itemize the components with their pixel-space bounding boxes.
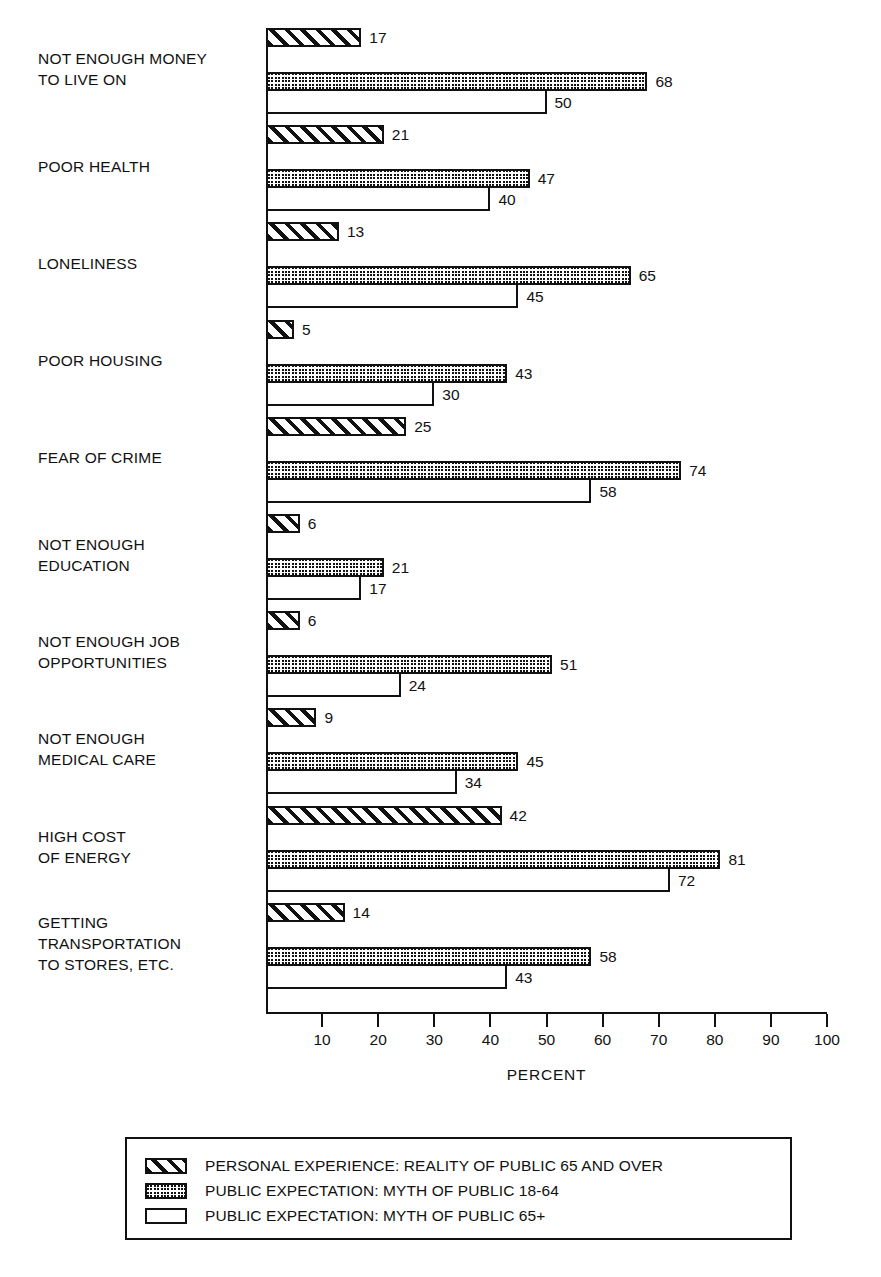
bar [266, 169, 530, 188]
x-axis-tick-label: 60 [594, 1030, 611, 1049]
bar [266, 655, 552, 674]
bar [266, 320, 294, 339]
bar-value-label: 17 [369, 577, 386, 600]
bar [266, 966, 507, 989]
diagonal-hatch-icon [145, 1158, 187, 1174]
bar-chart: NOT ENOUGH MONEY TO LIVE ONPOOR HEALTHLO… [0, 0, 881, 1277]
bar-value-label: 45 [526, 752, 543, 771]
x-axis-tick-label: 40 [482, 1030, 499, 1049]
category-label: FEAR OF CRIME [38, 447, 254, 468]
bar [266, 364, 507, 383]
bar-value-label: 58 [599, 947, 616, 966]
checker-fill-icon [145, 1183, 187, 1199]
bar-value-label: 43 [515, 364, 532, 383]
x-axis-title: PERCENT [266, 1066, 827, 1084]
bar-value-label: 17 [369, 28, 386, 47]
bar-value-label: 24 [409, 674, 426, 697]
bar [266, 188, 490, 211]
bar [266, 947, 591, 966]
bar-value-label: 43 [515, 966, 532, 989]
legend-label: PERSONAL EXPERIENCE: REALITY OF PUBLIC 6… [205, 1156, 663, 1175]
category-label: GETTING TRANSPORTATION TO STORES, ETC. [38, 912, 254, 975]
bar-value-label: 42 [510, 806, 527, 825]
bar [266, 850, 720, 869]
bar-value-label: 21 [392, 125, 409, 144]
bar [266, 480, 591, 503]
x-axis-tick [826, 1014, 828, 1027]
bar [266, 752, 518, 771]
bar [266, 674, 401, 697]
bar [266, 222, 339, 241]
bar-value-label: 14 [353, 903, 370, 922]
category-label: LONELINESS [38, 253, 254, 274]
x-axis-tick-label: 10 [313, 1030, 330, 1049]
x-axis-tick-label: 90 [762, 1030, 779, 1049]
bar [266, 869, 670, 892]
category-label: NOT ENOUGH EDUCATION [38, 534, 254, 576]
x-axis-tick-label: 20 [370, 1030, 387, 1049]
bar [266, 771, 457, 794]
category-label: HIGH COST OF ENERGY [38, 826, 254, 868]
x-axis-tick [489, 1014, 491, 1027]
bar-value-label: 13 [347, 222, 364, 241]
bar-value-label: 34 [465, 771, 482, 794]
bar-value-label: 50 [555, 91, 572, 114]
bar [266, 417, 406, 436]
bar [266, 285, 518, 308]
legend-box: PERSONAL EXPERIENCE: REALITY OF PUBLIC 6… [125, 1137, 792, 1240]
bar [266, 708, 316, 727]
bar [266, 806, 502, 825]
x-axis-tick [433, 1014, 435, 1027]
bar [266, 266, 631, 285]
bar [266, 461, 681, 480]
bar-value-label: 21 [392, 558, 409, 577]
x-axis-tick [321, 1014, 323, 1027]
bar-value-label: 45 [526, 285, 543, 308]
x-axis-tick [377, 1014, 379, 1027]
bar-value-label: 68 [655, 72, 672, 91]
bar [266, 577, 361, 600]
x-axis-tick-label: 70 [650, 1030, 667, 1049]
bar-value-label: 74 [689, 461, 706, 480]
bar [266, 28, 361, 47]
bar-value-label: 72 [678, 869, 695, 892]
legend-label: PUBLIC EXPECTATION: MYTH OF PUBLIC 18-64 [205, 1181, 559, 1200]
category-label: NOT ENOUGH MEDICAL CARE [38, 728, 254, 770]
plot-area: 1768502147401365455433025745862117651249… [266, 28, 876, 1018]
category-label: NOT ENOUGH JOB OPPORTUNITIES [38, 631, 254, 673]
bar [266, 91, 547, 114]
bar-value-label: 6 [308, 514, 317, 533]
bar [266, 903, 345, 922]
bar-value-label: 25 [414, 417, 431, 436]
bar-value-label: 47 [538, 169, 555, 188]
bar [266, 514, 300, 533]
x-axis-tick [658, 1014, 660, 1027]
bar-value-label: 5 [302, 320, 311, 339]
bar-value-label: 6 [308, 611, 317, 630]
bar [266, 611, 300, 630]
x-axis-tick-label: 30 [426, 1030, 443, 1049]
x-axis-tick-label: 80 [706, 1030, 723, 1049]
bar [266, 383, 434, 406]
x-axis-tick-label: 100 [814, 1030, 840, 1049]
bar-value-label: 9 [324, 708, 333, 727]
category-label: POOR HEALTH [38, 156, 254, 177]
bar-value-label: 65 [639, 266, 656, 285]
open-outline-icon [145, 1208, 187, 1224]
x-axis-tick [546, 1014, 548, 1027]
category-label: POOR HOUSING [38, 350, 254, 371]
x-axis-tick [602, 1014, 604, 1027]
bar-value-label: 58 [599, 480, 616, 503]
bar-value-label: 81 [728, 850, 745, 869]
bar-value-label: 30 [442, 383, 459, 406]
x-axis-tick-label: 50 [538, 1030, 555, 1049]
x-axis-tick [770, 1014, 772, 1027]
bar-value-label: 40 [498, 188, 515, 211]
bar [266, 125, 384, 144]
x-axis-tick [714, 1014, 716, 1027]
bar [266, 72, 647, 91]
legend-item: PERSONAL EXPERIENCE: REALITY OF PUBLIC 6… [145, 1155, 663, 1176]
bar [266, 558, 384, 577]
legend-label: PUBLIC EXPECTATION: MYTH OF PUBLIC 65+ [205, 1206, 545, 1225]
legend-item: PUBLIC EXPECTATION: MYTH OF PUBLIC 18-64 [145, 1180, 559, 1201]
